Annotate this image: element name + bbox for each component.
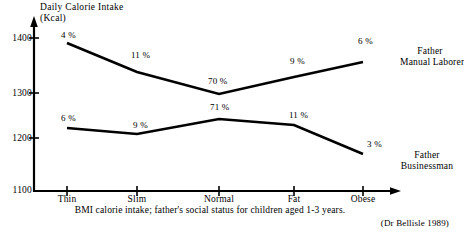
y-axis [29, 16, 39, 192]
series-line-businessman [67, 119, 363, 154]
chart-source-attribution: (Dr Bellisle 1989) [381, 218, 449, 228]
series-label-manual-line2: Manual Laborer [400, 57, 464, 67]
point-label-manual-slim: 11 % [131, 50, 150, 60]
series-label-manual-laborer: Father Manual Laborer [400, 46, 460, 68]
chart-caption: BMI calorie intake; father's social stat… [0, 205, 420, 215]
point-label-manual-fat: 9 % [290, 56, 305, 66]
x-tick-label-slim: Slim [107, 194, 167, 204]
point-label-manual-normal: 70 % [208, 76, 228, 86]
series-line-manual-laborer [67, 43, 363, 94]
point-label-manual-obese: 6 % [358, 36, 373, 46]
x-tick-label-thin: Thin [37, 194, 97, 204]
point-label-business-fat: 11 % [289, 110, 308, 120]
point-label-business-obese: 3 % [367, 139, 382, 149]
series-label-manual-line1: Father [417, 46, 442, 56]
point-label-business-slim: 9 % [133, 120, 148, 130]
point-label-manual-thin: 4 % [61, 30, 76, 40]
series-label-business-line1: Father [414, 150, 439, 160]
series-label-businessman: Father Businessman [396, 150, 458, 172]
series-label-business-line2: Businessman [401, 161, 453, 171]
x-tick-label-normal: Normal [189, 194, 249, 204]
x-tick-label-fat: Fat [264, 194, 324, 204]
point-label-business-normal: 71 % [210, 102, 230, 112]
point-label-business-thin: 6 % [61, 113, 76, 123]
x-tick-label-obese: Obese [333, 194, 393, 204]
